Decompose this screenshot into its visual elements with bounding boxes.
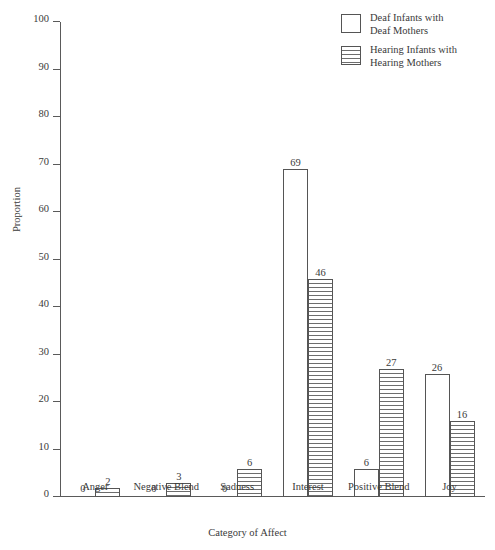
y-tick-mark — [53, 449, 60, 450]
y-tick: 60 — [53, 211, 60, 212]
y-tick-label: 70 — [39, 156, 50, 167]
x-category-label: Positive Blend — [348, 481, 410, 492]
x-category-label: Interest — [292, 481, 324, 492]
y-axis-title: Proportion — [11, 187, 22, 232]
y-tick-label: 20 — [39, 393, 50, 404]
y-tick-mark — [53, 69, 60, 70]
y-tick: 50 — [53, 259, 60, 260]
x-axis-line — [60, 496, 485, 497]
bar-value-label: 6 — [247, 457, 252, 468]
y-tick: 20 — [53, 401, 60, 402]
bar-value-label: 46 — [315, 267, 326, 278]
y-tick-label: 90 — [39, 61, 50, 72]
y-tick: 90 — [53, 69, 60, 70]
y-tick-mark — [53, 164, 60, 165]
bar-value-label: 69 — [290, 157, 301, 168]
y-tick-label: 0 — [44, 488, 49, 499]
y-tick: 80 — [53, 116, 60, 117]
y-tick-mark — [53, 21, 60, 22]
y-tick-mark — [53, 259, 60, 260]
x-category-label: Anger — [82, 481, 108, 492]
y-tick-label: 30 — [39, 346, 50, 357]
y-axis-line — [60, 22, 61, 497]
y-tick-mark — [53, 496, 60, 497]
y-tick-mark — [53, 306, 60, 307]
y-tick: 30 — [53, 354, 60, 355]
bar-value-label: 16 — [457, 409, 468, 420]
bar: 27 — [379, 369, 404, 497]
plot-area: 0102030405060708090100 02030669466272616 — [60, 22, 485, 497]
bar: 46 — [308, 279, 333, 498]
y-tick-label: 100 — [33, 13, 49, 24]
y-tick: 70 — [53, 164, 60, 165]
y-tick: 0 — [53, 496, 60, 497]
x-category-label: Negative Blend — [133, 481, 199, 492]
bar-value-label: 26 — [432, 362, 443, 373]
y-tick-mark — [53, 354, 60, 355]
y-tick: 40 — [53, 306, 60, 307]
y-tick-label: 50 — [39, 251, 50, 262]
y-tick-label: 60 — [39, 203, 50, 214]
y-tick-label: 10 — [39, 441, 50, 452]
bar-chart: Deaf Infants with Deaf Mothers Hearing I… — [0, 0, 495, 550]
x-category-label: Joy — [442, 481, 457, 492]
y-tick: 10 — [53, 449, 60, 450]
y-tick-label: 80 — [39, 108, 50, 119]
bar: 69 — [283, 169, 308, 497]
x-category-label: Sadness — [220, 481, 254, 492]
y-tick-mark — [53, 116, 60, 117]
bar-value-label: 27 — [386, 357, 397, 368]
y-tick-mark — [53, 401, 60, 402]
bar: 26 — [425, 374, 450, 498]
x-axis-title: Category of Affect — [0, 527, 495, 538]
bar-value-label: 6 — [364, 457, 369, 468]
y-tick-label: 40 — [39, 298, 50, 309]
y-tick-mark — [53, 211, 60, 212]
y-tick: 100 — [53, 21, 60, 22]
